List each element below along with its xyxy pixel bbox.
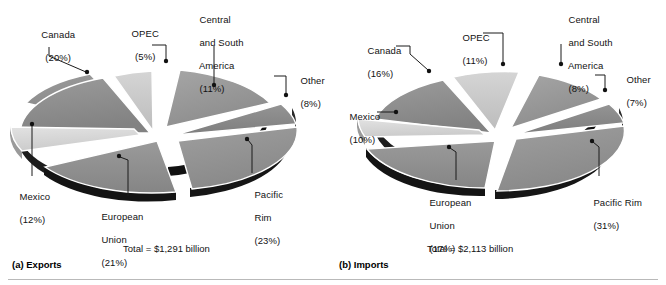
label-pacific-line2: Rim bbox=[254, 212, 271, 223]
label-canada-percent: (16%) bbox=[367, 68, 393, 79]
label-canada-name: Canada bbox=[41, 29, 75, 40]
label-opec-percent: (5%) bbox=[135, 51, 155, 62]
label-canada-name: Canada bbox=[367, 45, 401, 56]
label-mexico-percent: (10%) bbox=[349, 134, 375, 145]
label-other-percent: (7%) bbox=[626, 97, 646, 108]
label-pacific-rim-exports: Pacific Rim (23%) bbox=[238, 178, 284, 258]
slice-pacific-rim bbox=[497, 126, 624, 191]
caption-exports: (a) Exports bbox=[12, 259, 62, 270]
label-eu-percent: (21%) bbox=[101, 257, 127, 268]
label-csa-line1: Central bbox=[199, 14, 230, 25]
caption-text-exports: Exports bbox=[26, 259, 61, 270]
label-mexico-exports: Mexico (12%) bbox=[3, 180, 55, 237]
slice-mexico bbox=[11, 127, 140, 151]
label-canada-exports: Canada (20%) bbox=[18, 18, 82, 75]
label-eu-line1: European bbox=[429, 197, 471, 208]
label-opec-name: OPEC bbox=[462, 32, 489, 43]
total-label-exports: Total = $1,291 billion bbox=[123, 243, 210, 255]
label-other-name: Other bbox=[626, 74, 650, 85]
label-canada-percent: (20%) bbox=[45, 52, 71, 63]
label-mexico-name: Mexico bbox=[349, 111, 380, 122]
caption-imports: (b) Imports bbox=[339, 259, 389, 270]
label-other-percent: (8%) bbox=[300, 98, 320, 109]
caption-index-exports: (a) bbox=[12, 259, 24, 270]
label-csa-line3: America bbox=[199, 60, 235, 71]
caption-text-imports: Imports bbox=[354, 259, 389, 270]
chart-panel-exports: Canada (20%) OPEC (5%) Central and South… bbox=[0, 0, 333, 285]
label-csa-exports: Central and South America (11%) bbox=[183, 3, 261, 106]
label-opec-imports: OPEC (11%) bbox=[446, 21, 490, 78]
label-opec-percent: (11%) bbox=[462, 55, 487, 66]
label-canada-imports: Canada (16%) bbox=[351, 34, 407, 91]
label-mexico-percent: (12%) bbox=[19, 214, 45, 225]
label-csa-line3: America bbox=[568, 60, 604, 71]
bottom-divider-rule bbox=[8, 279, 658, 280]
label-pacific-percent: (23%) bbox=[254, 235, 280, 246]
label-opec-name: OPEC bbox=[132, 28, 159, 39]
label-eu-line1: European bbox=[101, 211, 143, 222]
label-pacific-line1: Pacific bbox=[254, 189, 283, 200]
label-eu-line2: Union bbox=[429, 220, 454, 231]
label-other-name: Other bbox=[300, 75, 324, 86]
label-mexico-name: Mexico bbox=[19, 191, 50, 202]
label-csa-line1: Central bbox=[568, 14, 599, 25]
label-csa-line2: and South bbox=[199, 37, 243, 48]
caption-index-imports: (b) bbox=[339, 259, 351, 270]
label-csa-percent: (8%) bbox=[568, 83, 588, 94]
label-csa-percent: (11%) bbox=[199, 83, 224, 94]
label-pacific-percent: (31%) bbox=[593, 220, 619, 231]
label-other-imports: Other (7%) bbox=[610, 63, 656, 120]
label-pacific-rim-imports: Pacific Rim (31%) bbox=[577, 186, 641, 243]
label-csa-line2: and South bbox=[568, 37, 612, 48]
figure-two-pie-charts: Canada (20%) OPEC (5%) Central and South… bbox=[0, 0, 666, 285]
total-label-imports: Total = $2,113 billion bbox=[427, 243, 513, 255]
label-european-union-exports: European Union (21%) bbox=[85, 200, 147, 280]
slice-european-union bbox=[367, 141, 495, 188]
label-pacific-line1: Pacific Rim bbox=[593, 197, 642, 208]
label-mexico-imports: Mexico (10%) bbox=[333, 100, 379, 157]
label-opec-exports: OPEC (5%) bbox=[113, 17, 161, 74]
label-other-exports: Other (8%) bbox=[284, 64, 330, 121]
chart-panel-imports: Canada (16%) OPEC (11%) Central and Sout… bbox=[333, 0, 666, 285]
